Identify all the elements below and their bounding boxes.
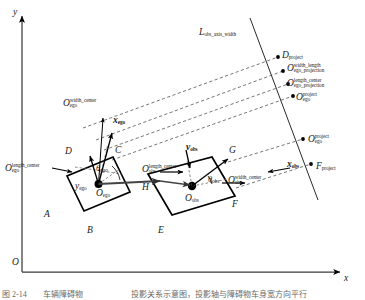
projection-axis-label: Lobs_axis_width [199,28,236,38]
ego-project-lower-label: Oprojectego [308,134,329,145]
f-project-label: Fproject [316,162,336,172]
ego-vertex-C: C [115,146,121,156]
ego-length-center-pointer [52,168,72,172]
figure-canvas: O x y Lobs_axis_width D C A B H G E F Oe… [0,0,365,300]
obstacle-center-label: Oobs [185,194,199,204]
obstacle-velocity-arrow [186,150,190,168]
ego-center-label: Oego [96,189,110,199]
ego-width-center-label: Owidth_centerego [63,98,96,109]
ego-vertex-B: B [87,226,93,236]
diagram-svg [0,0,365,300]
ego-vertex-D: D [65,147,72,157]
ego-length-center-projection-label: Olength_centerego_projection [287,78,324,89]
ego-heading-arrow [99,181,161,184]
projection-axis-line [250,18,318,200]
y-axis-label: y [13,8,17,18]
x-axis-label: x [344,274,348,284]
ego-x-axis-label: xego [113,116,125,126]
origin-label: O [12,258,19,268]
obstacle-vertex-E: E [158,226,164,236]
obstacle-length-center-label: Olength_centerobs [142,164,176,175]
obstacle-vertex-G: G [229,146,236,156]
obstacle-vertex-F: F [232,200,238,210]
figure-caption: 图 2-14 车辆障碍物 投影关系示意图，投影轴与障碍物车身宽方向平行 [2,288,365,300]
obstacle-width-center-label: Owidth_centerobs [228,175,261,186]
obstacle-heading-arrow [160,181,190,185]
ego-vertex-A: A [44,210,50,220]
ego-project-label: Oprojectego [296,92,317,103]
obstacle-velocity-label: vobs [186,143,197,153]
d-project-label: Dproject [282,51,303,61]
ego-width-length-projection-label: Owidth_lengthego_projection [287,63,324,74]
ego-length-center-label: Olength_centerego [5,163,39,174]
obstacle-vertex-H: H [142,183,149,193]
ego-y-axis-label: yego [75,182,86,192]
obstacle-x-axis-label: xobs [287,160,299,170]
obstacle-theta-label: θobs [208,176,219,185]
ego-theta-label: θego [96,165,108,174]
